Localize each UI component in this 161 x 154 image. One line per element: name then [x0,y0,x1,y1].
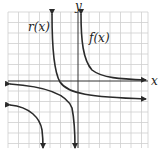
f-branch [81,14,146,80]
x-axis-label: x [151,74,158,88]
graph: y x r(x) f(x) [0,0,161,154]
r-upper-branch [52,14,146,99]
curve-f [81,14,146,80]
r-lower-branch [10,105,43,148]
f-label: f(x) [88,31,110,45]
y-axis-label: y [74,0,82,13]
r-label: r(x) [28,20,50,34]
